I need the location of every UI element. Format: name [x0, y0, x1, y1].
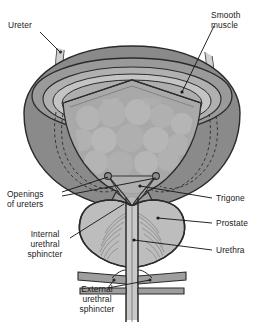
label-smooth-muscle: Smooth muscle [211, 10, 240, 30]
label-prostate: Prostate [216, 218, 248, 228]
anatomy-figure: Ureter Smooth muscle Openings of ureters… [0, 0, 265, 328]
label-ureter: Ureter [8, 20, 32, 30]
label-internal-urethral-sphincter: Internal urethral sphincter [12, 229, 78, 260]
label-trigone: Trigone [216, 193, 245, 203]
label-urethra: Urethra [216, 245, 245, 255]
label-openings-of-ureters: Openings of ureters [7, 189, 44, 209]
label-external-urethral-sphincter: External urethral sphincter [58, 284, 136, 315]
ureteric-orifice-left [105, 173, 112, 180]
leader-ureter [40, 32, 60, 52]
bladder-illustration [0, 0, 265, 328]
